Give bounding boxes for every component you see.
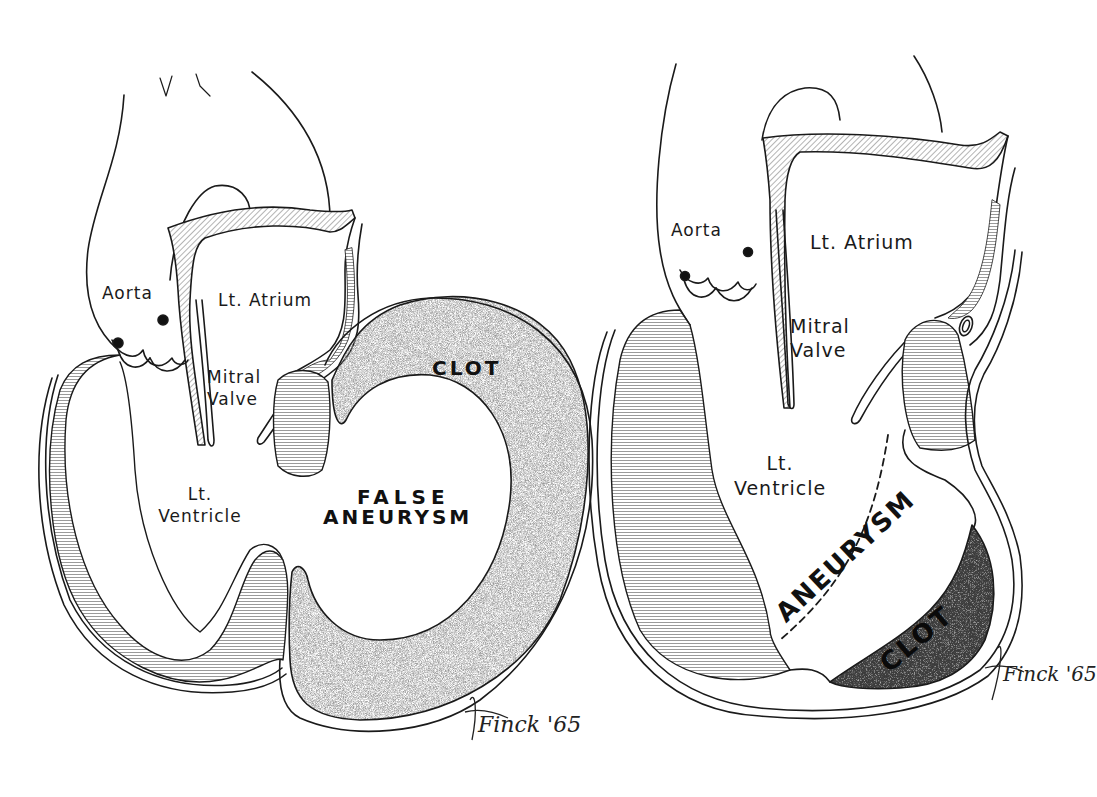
left-lt-label-line1: Lt. <box>150 483 250 505</box>
left-aorta-label: Aorta <box>102 282 153 304</box>
false-aneurysm-label-line2: ANEURYSM <box>323 505 472 529</box>
left-artist-signature: Finck '65 <box>478 712 581 737</box>
right-artist-signature: Finck '65 <box>1003 662 1097 686</box>
left-ventricle-label-line2: Ventricle <box>140 505 260 527</box>
right-ventricle-label-line2: Ventricle <box>715 477 845 499</box>
right-mitral-label-line1: Mitral <box>790 315 850 337</box>
left-panel-false-aneurysm <box>39 72 593 731</box>
left-lt-atrium-label: Lt. Atrium <box>218 289 312 311</box>
left-mitral-label-line1: Mitral <box>207 366 261 388</box>
right-valve-label-line2: Valve <box>790 339 846 361</box>
left-clot-label: CLOT <box>432 356 501 380</box>
left-valve-label-line2: Valve <box>207 388 258 410</box>
right-lt-label-line1: Lt. <box>730 452 830 474</box>
right-aorta-label: Aorta <box>671 219 722 241</box>
right-lt-atrium-label: Lt. Atrium <box>810 231 914 253</box>
